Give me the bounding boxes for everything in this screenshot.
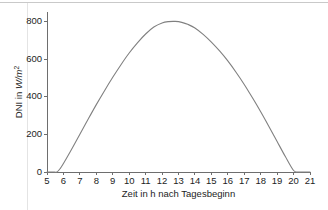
x-tick-label: 10 <box>124 175 135 186</box>
y-tick-label: 400 <box>26 90 42 101</box>
x-tick-label: 16 <box>223 175 234 186</box>
chart-figure: 0200400600800 56789101112131415161718192… <box>0 0 328 210</box>
y-tick-label: 800 <box>26 15 42 26</box>
x-tick-label: 12 <box>157 175 168 186</box>
y-axis: 0200400600800 <box>26 12 47 177</box>
y-tick-label: 600 <box>26 53 42 64</box>
x-axis-title: Zeit in h nach Tagesbeginn <box>122 188 235 199</box>
x-tick-label: 9 <box>110 175 115 186</box>
x-tick-label: 7 <box>77 175 82 186</box>
dni-line-chart: 0200400600800 56789101112131415161718192… <box>0 0 328 210</box>
x-tick-label-group: 56789101112131415161718192021 <box>44 175 315 186</box>
x-tick-label: 14 <box>190 175 201 186</box>
x-tick-label: 5 <box>44 175 49 186</box>
x-tick-label: 6 <box>61 175 66 186</box>
dni-series-line <box>47 21 310 172</box>
x-tick-label: 20 <box>288 175 299 186</box>
y-axis-title-unit: W/m <box>13 69 24 89</box>
x-tick-label: 8 <box>94 175 99 186</box>
y-tick-label-group: 0200400600800 <box>26 15 42 177</box>
x-axis: 56789101112131415161718192021 <box>44 172 315 186</box>
x-tick-label: 11 <box>141 175 151 186</box>
x-tick-label: 19 <box>272 175 283 186</box>
y-tick-label: 0 <box>37 166 42 177</box>
y-axis-title-prefix: DNI in <box>13 89 24 118</box>
x-tick-label: 21 <box>305 175 316 186</box>
y-tick-label: 200 <box>26 128 42 139</box>
x-tick-label: 15 <box>206 175 217 186</box>
x-tick-label: 18 <box>255 175 266 186</box>
x-tick-label: 17 <box>239 175 250 186</box>
y-axis-title-exponent: 2 <box>13 66 20 70</box>
y-axis-title: DNI in W/m2 <box>13 66 25 119</box>
x-tick-label: 13 <box>173 175 184 186</box>
